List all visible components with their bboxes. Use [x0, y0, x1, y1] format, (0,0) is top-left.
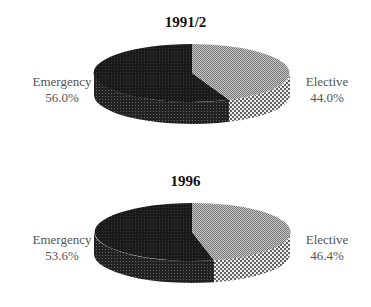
slice-label: Emergency — [22, 232, 102, 248]
pie-1996 — [94, 203, 291, 283]
label-emergency-1991-2: Emergency 56.0% — [22, 74, 102, 106]
slice-value: 56.0% — [22, 90, 102, 106]
slice-label: Emergency — [22, 74, 102, 90]
chart-title-1991-2: 1991/2 — [0, 14, 371, 31]
slice-value: 53.6% — [22, 248, 102, 264]
slice-label: Elective — [296, 74, 358, 90]
slice-label: Elective — [296, 232, 358, 248]
slice-value: 44.0% — [296, 90, 358, 106]
chart-title-1996: 1996 — [0, 173, 371, 190]
label-elective-1996: Elective 46.4% — [296, 232, 358, 264]
label-elective-1991-2: Elective 44.0% — [296, 74, 358, 106]
pie-1991-2 — [94, 44, 290, 124]
label-emergency-1996: Emergency 53.6% — [22, 232, 102, 264]
slice-value: 46.4% — [296, 248, 358, 264]
